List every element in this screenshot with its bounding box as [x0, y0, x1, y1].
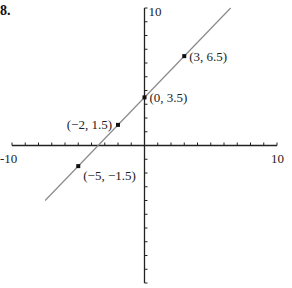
- coordinate-plane: 8. -101010 (3, 6.5)(0, 3.5)(−2, 1.5)(−5,…: [0, 0, 292, 288]
- x-min-label: -10: [0, 151, 17, 166]
- data-points: (3, 6.5)(0, 3.5)(−2, 1.5)(−5, −1.5): [67, 49, 227, 183]
- line-y-equals-x-plus-3.5: [45, 8, 231, 201]
- x-max-label: 10: [271, 151, 284, 166]
- data-point: [182, 54, 186, 58]
- data-point: [143, 95, 147, 99]
- y-max-label: 10: [149, 4, 162, 19]
- data-point: [76, 164, 80, 168]
- tick-labels: -101010: [0, 4, 284, 166]
- problem-number: 8.: [0, 3, 11, 18]
- point-label: (−2, 1.5): [67, 117, 112, 132]
- point-label: (0, 3.5): [150, 90, 188, 105]
- point-label: (−5, −1.5): [83, 168, 136, 183]
- data-point: [116, 123, 120, 127]
- point-label: (3, 6.5): [189, 49, 227, 64]
